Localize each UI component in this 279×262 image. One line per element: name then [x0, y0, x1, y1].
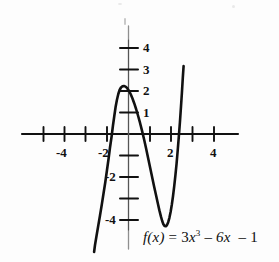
- equation-minus-1: –: [204, 229, 212, 245]
- y-tick-label-2: 2: [143, 84, 150, 97]
- equation-space4: [231, 229, 239, 245]
- y-tick-label-3: 3: [143, 63, 150, 76]
- equation-constant-1: 1: [250, 229, 258, 245]
- y-tick-label-4: 4: [143, 41, 150, 54]
- equation-coef-3: 3: [181, 229, 189, 245]
- x-tick-label--2: -2: [98, 146, 109, 159]
- equation-equals-sign: =: [169, 229, 178, 245]
- x-tick-label-4: 4: [210, 146, 217, 159]
- y-tick-label-1: 1: [143, 106, 150, 119]
- cubic-function-plot: [0, 0, 279, 262]
- x-tick-label-2: 2: [167, 146, 174, 159]
- equation-term-6x: 6x: [216, 229, 231, 245]
- y-tick-label--2: -2: [105, 170, 116, 183]
- y-tick-label--4: -4: [105, 213, 116, 226]
- equation-annotation: f(x) = 3x3 – 6x – 1: [143, 228, 258, 246]
- equation-fx: f(x): [143, 229, 165, 245]
- x-tick-label--4: -4: [56, 146, 67, 159]
- equation-var-x: x: [189, 229, 196, 245]
- figure-container: -4 -2 2 4 4 3 2 1 -2 -4 f(x) = 3x3 – 6x …: [0, 0, 279, 262]
